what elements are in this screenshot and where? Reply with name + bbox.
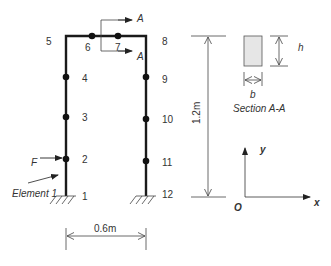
section-cut-label-bottom: A bbox=[136, 51, 144, 62]
section-cut-marker: A A bbox=[101, 13, 144, 62]
y-axis-label: y bbox=[259, 144, 266, 155]
node-label-1: 1 bbox=[82, 191, 88, 202]
node-label-8: 8 bbox=[162, 36, 168, 47]
node-9-dot bbox=[143, 74, 150, 81]
node-label-3: 3 bbox=[82, 112, 88, 123]
x-axis-label: x bbox=[313, 197, 320, 208]
section-cut-label-top: A bbox=[136, 13, 144, 24]
node-10-dot bbox=[143, 116, 150, 123]
section-height-label: h bbox=[298, 42, 304, 53]
node-label-6: 6 bbox=[85, 42, 91, 53]
structural-frame-diagram: 1 2 3 4 5 6 7 8 9 10 11 12 F Element 1 bbox=[0, 0, 331, 266]
node-label-5: 5 bbox=[46, 36, 52, 47]
node-label-10: 10 bbox=[162, 114, 174, 125]
cross-section: h b Section A-A bbox=[233, 36, 304, 114]
force-label: F bbox=[31, 157, 38, 168]
height-dimension: 1.2m bbox=[191, 36, 226, 197]
height-dimension-label: 1.2m bbox=[191, 102, 202, 124]
element-1-label: Element 1 bbox=[12, 188, 57, 199]
force-arrow: F bbox=[31, 157, 62, 168]
coordinate-axes: y x O bbox=[234, 144, 320, 213]
node-label-12: 12 bbox=[162, 189, 174, 200]
cross-section-rect bbox=[244, 36, 262, 66]
node-11-dot bbox=[143, 158, 150, 165]
frame-members bbox=[66, 36, 146, 196]
width-dimension: 0.6m bbox=[66, 223, 146, 250]
node-label-11: 11 bbox=[162, 157, 173, 168]
width-dimension-label: 0.6m bbox=[94, 223, 116, 234]
node-6-dot bbox=[89, 33, 96, 40]
origin-label: O bbox=[234, 202, 242, 213]
node-4-dot bbox=[63, 74, 70, 81]
node-7-dot bbox=[115, 33, 122, 40]
section-width-label: b bbox=[250, 89, 256, 100]
portal-frame bbox=[66, 36, 146, 196]
element-1-pointer: Element 1 bbox=[12, 175, 58, 199]
node-label-4: 4 bbox=[82, 73, 88, 84]
fixed-support-right bbox=[130, 196, 156, 204]
node-3-dot bbox=[63, 114, 70, 121]
node-label-9: 9 bbox=[162, 74, 168, 85]
node-2-dot bbox=[63, 156, 70, 163]
node-label-2: 2 bbox=[82, 154, 88, 165]
section-title: Section A-A bbox=[233, 103, 286, 114]
